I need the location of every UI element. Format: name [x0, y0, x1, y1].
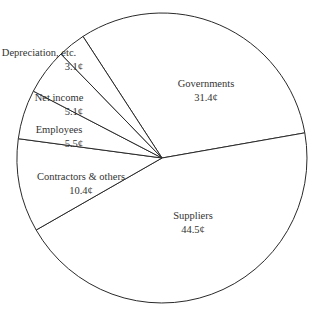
net-income-name: Net income — [35, 92, 84, 103]
governments-name: Governments — [178, 78, 235, 89]
employees-value: 5.5¢ — [65, 138, 83, 149]
pie-chart-svg: Governments 31.4¢ Suppliers 44.5¢ Contra… — [0, 0, 316, 318]
governments-value: 31.4¢ — [194, 92, 218, 103]
net-income-value: 5.1¢ — [65, 106, 83, 117]
contractors-name: Contractors & others — [37, 171, 125, 182]
suppliers-value: 44.5¢ — [181, 224, 205, 235]
contractors-value: 10.4¢ — [69, 185, 93, 196]
depreciation-name: Depreciation, etc. — [2, 47, 76, 58]
depreciation-value: 3.1¢ — [65, 61, 83, 72]
suppliers-name: Suppliers — [173, 210, 213, 221]
employees-name: Employees — [36, 124, 83, 135]
pie-chart: Governments 31.4¢ Suppliers 44.5¢ Contra… — [0, 0, 316, 318]
